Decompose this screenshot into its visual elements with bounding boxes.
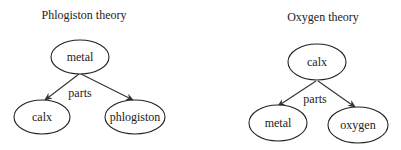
- diagram-canvas: Phlogiston theory metal parts calx phlog…: [0, 0, 401, 150]
- node-label: calx: [307, 55, 327, 69]
- phlogiston-diagram: Phlogiston theory metal parts calx phlog…: [14, 8, 165, 134]
- diagram-title: Oxygen theory: [287, 10, 359, 24]
- node-child: calx: [14, 100, 70, 134]
- node-label: metal: [67, 50, 94, 64]
- edge-label: parts: [68, 86, 92, 100]
- node-label: metal: [265, 116, 292, 130]
- node-child: oxygen: [328, 107, 388, 143]
- node-child: phlogiston: [105, 100, 165, 134]
- node-root: metal: [51, 40, 109, 74]
- edge-label: parts: [303, 92, 327, 106]
- oxygen-diagram: Oxygen theory calx parts metal oxygen: [249, 10, 388, 143]
- node-label: calx: [32, 110, 52, 124]
- node-label: phlogiston: [110, 110, 161, 124]
- node-label: oxygen: [340, 118, 375, 132]
- node-child: metal: [249, 105, 307, 141]
- diagram-title: Phlogiston theory: [41, 8, 126, 22]
- node-root: calx: [288, 44, 346, 80]
